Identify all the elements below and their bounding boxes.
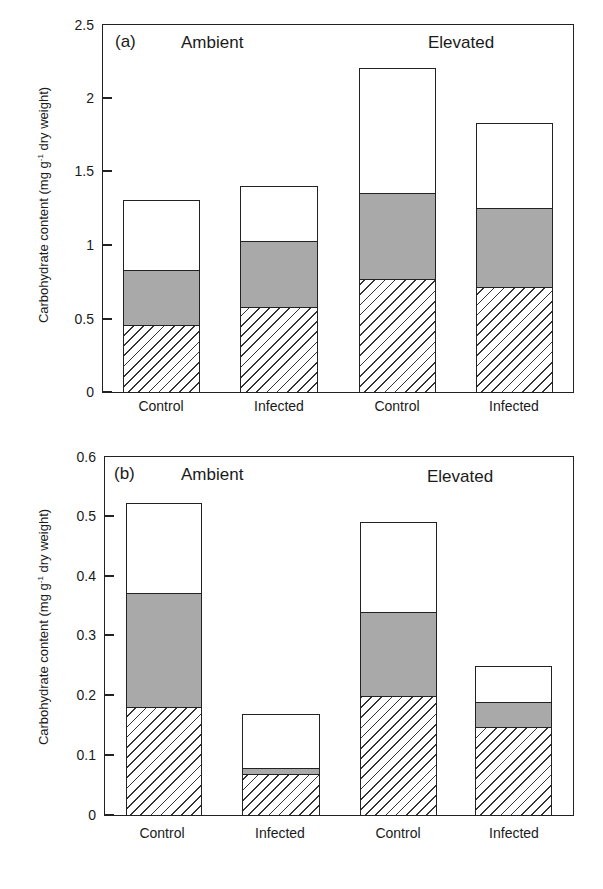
bar-segment-grey [360,612,437,698]
bar-ambient-control [126,503,202,816]
bar-segment-hatched [360,696,437,816]
bar-segment-grey [126,593,202,709]
y-tick-label: 0.6 [56,450,96,464]
bar-segment-white [242,714,320,770]
panel-tag-b: (b) [114,464,135,484]
y-tick [105,575,114,577]
y-tick [105,634,114,636]
chart-panel-b: Carbohydrate content (mg g-1 dry weight)… [0,0,603,889]
y-tick [105,754,114,756]
bar-segment-white [126,503,202,595]
group-label-elevated: Elevated [427,467,493,487]
y-tick-label: 0.2 [56,688,96,702]
y-tick-label: 0.3 [56,628,96,642]
bar-ambient-infected [242,714,320,816]
y-axis-label-text-end: dry weight) [36,509,51,576]
bar-segment-hatched [126,707,202,816]
x-tick-label: Control [348,825,448,841]
y-tick-label: 0.5 [56,509,96,523]
y-axis-label-b: Carbohydrate content (mg g-1 dry weight) [36,472,54,782]
group-label-ambient: Ambient [181,465,243,485]
bar-segment-hatched [242,774,320,816]
y-tick [105,515,114,517]
x-tick-label: Control [112,825,212,841]
bar-elevated-control [360,522,437,816]
bar-segment-white [475,666,552,704]
y-tick-label: 0 [56,808,96,822]
x-tick-label: Infected [230,825,330,841]
y-tick-label: 0.4 [56,569,96,583]
bar-elevated-infected [475,666,552,816]
y-axis-label-exponent: -1 [36,576,45,583]
bar-segment-hatched [475,727,552,816]
x-tick-label: Infected [464,825,564,841]
y-axis-label-text: Carbohydrate content (mg g [36,583,51,745]
bar-segment-white [360,522,437,614]
y-tick-label: 0.1 [56,748,96,762]
bar-segment-grey [475,702,552,729]
y-tick [105,694,114,696]
y-tick [105,814,114,816]
